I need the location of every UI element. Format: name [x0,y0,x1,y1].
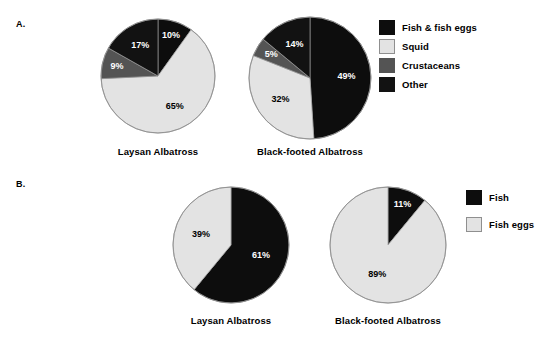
pie-chart-b-laysan-svg: 61%39% [171,185,291,305]
legend-swatch-icon [379,39,395,54]
legend-label: Squid [402,42,429,52]
pie-caption-a-blackfooted: Black-footed Albatross [210,146,410,157]
pie-chart-a-laysan: 10%65%9%17% [99,17,217,135]
pie-caption-b-blackfooted: Black-footed Albatross [288,315,488,326]
legend-label: Fish eggs [489,220,534,230]
legend-label: Fish [489,193,509,203]
legend-swatch-icon [379,20,395,35]
legend-item-other[interactable]: Other [379,77,477,92]
pie-chart-b-blackfooted-value-label-1: 11% [394,199,412,209]
pie-chart-a-blackfooted: 49%32%5%14% [247,15,373,141]
legend-item-crustaceans[interactable]: Crustaceans [379,58,477,73]
pie-chart-a-laysan-value-label-3: 9% [110,61,123,71]
pie-chart-b-blackfooted-svg: 11%89% [328,185,448,305]
pie-chart-b-laysan-value-label-1: 61% [252,250,270,260]
panel-a-letter: A. [16,19,25,29]
legend-item-fish-fish-eggs[interactable]: Fish & fish eggs [379,20,477,35]
legend-panel-a: Fish & fish eggsSquidCrustaceansOther [379,20,477,96]
pie-chart-a-blackfooted-value-label-2: 32% [271,94,289,104]
panel-b-letter: B. [16,179,25,189]
pie-chart-a-laysan-value-label-1: 10% [162,30,180,40]
pie-chart-a-blackfooted-value-label-1: 49% [338,71,356,81]
legend-label: Fish & fish eggs [402,23,477,33]
legend-label: Other [402,80,428,90]
legend-item-fish[interactable]: Fish [466,190,534,205]
legend-item-squid[interactable]: Squid [379,39,477,54]
pie-chart-a-laysan-value-label-4: 17% [131,40,149,50]
legend-panel-b: FishFish eggs [466,190,534,244]
pie-chart-b-blackfooted-value-label-2: 89% [368,269,386,279]
pie-chart-a-blackfooted-value-label-4: 14% [285,39,303,49]
pie-chart-b-blackfooted-slice-2 [330,187,446,303]
pie-chart-b-laysan-value-label-2: 39% [192,229,210,239]
pie-chart-b-blackfooted: 11%89% [328,185,448,305]
legend-swatch-icon [379,58,395,73]
pie-chart-a-blackfooted-value-label-3: 5% [265,49,278,59]
legend-swatch-icon [466,190,482,205]
pie-chart-b-laysan: 61%39% [171,185,291,305]
legend-item-fish-eggs[interactable]: Fish eggs [466,217,534,232]
legend-label: Crustaceans [402,61,460,71]
pie-chart-a-blackfooted-svg: 49%32%5%14% [247,15,373,141]
legend-swatch-icon [379,77,395,92]
pie-chart-a-laysan-value-label-2: 65% [166,101,184,111]
pie-chart-a-laysan-svg: 10%65%9%17% [99,17,217,135]
legend-swatch-icon [466,217,482,232]
